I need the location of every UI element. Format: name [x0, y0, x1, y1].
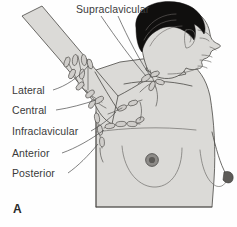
panel-letter-a: A [13, 202, 22, 216]
label-infraclavicular: Infraclavicular [12, 125, 79, 137]
node-anterior-3 [127, 121, 137, 127]
label-supraclavicular: Supraclavicular [76, 3, 150, 15]
label-posterior: Posterior [12, 167, 55, 179]
far-breast-nipple [223, 171, 233, 182]
label-lateral: Lateral [12, 84, 45, 96]
nipple-group [146, 154, 159, 167]
nipple [149, 157, 155, 163]
lymph-node-figure: Supraclavicular Lateral Central Infracla… [0, 0, 237, 227]
label-anterior: Anterior [12, 147, 50, 159]
anatomical-illustration: Supraclavicular Lateral Central Infracla… [0, 0, 237, 227]
node-anterior-2 [116, 121, 127, 127]
label-central: Central [12, 104, 47, 116]
node-posterior-3 [99, 137, 104, 147]
